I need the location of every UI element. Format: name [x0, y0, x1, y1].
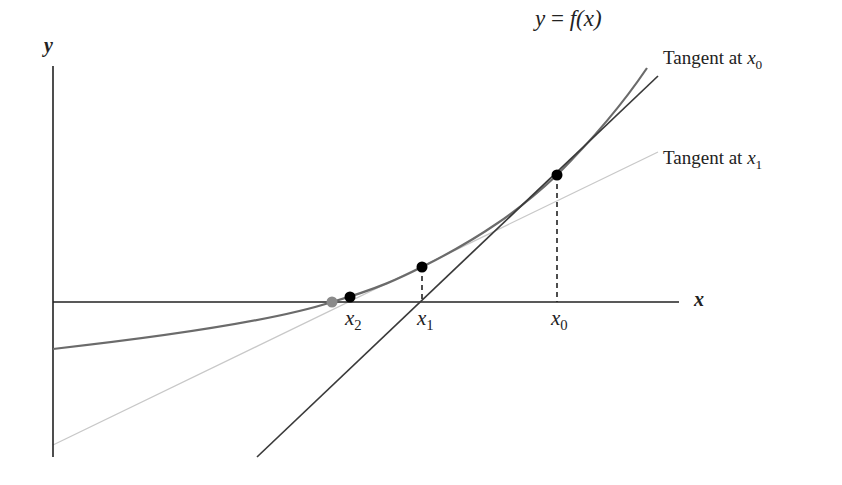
newton-method-diagram	[0, 0, 842, 485]
point-x2	[345, 292, 356, 303]
tangent-x1-var: x	[747, 147, 755, 168]
tangent-x1-label: Tangent at x1	[663, 147, 762, 173]
tangent-line-x1	[53, 152, 658, 445]
tick-label-x2: x2	[345, 306, 362, 334]
tangent-x1-text: Tangent at	[663, 147, 747, 168]
tangent-x0-label: Tangent at x0	[663, 47, 762, 73]
x-axis-label: x	[694, 288, 704, 311]
curve-label-eq: =	[545, 6, 569, 31]
tick-label-x0: x0	[551, 306, 568, 334]
tangent-x0-text: Tangent at	[663, 47, 747, 68]
root-point	[327, 297, 338, 308]
curve-label: y = f(x)	[535, 6, 602, 32]
tangent-x0-sub: 0	[756, 57, 763, 72]
point-x0	[552, 170, 563, 181]
tick-x0-sub: 0	[560, 317, 567, 333]
tick-label-x1: x1	[417, 306, 434, 334]
y-axis-label: y	[44, 34, 53, 57]
curve-label-arg: (x)	[576, 6, 602, 31]
point-x1	[417, 262, 428, 273]
tick-x0-var: x	[551, 306, 560, 330]
tangent-x1-sub: 1	[756, 157, 763, 172]
tick-x2-sub: 2	[354, 317, 361, 333]
tangent-x0-var: x	[747, 47, 755, 68]
tick-x1-var: x	[417, 306, 426, 330]
tick-x2-var: x	[345, 306, 354, 330]
curve-label-lhs: y	[535, 6, 545, 31]
tangent-line-x0	[257, 76, 658, 457]
tick-x1-sub: 1	[426, 317, 433, 333]
